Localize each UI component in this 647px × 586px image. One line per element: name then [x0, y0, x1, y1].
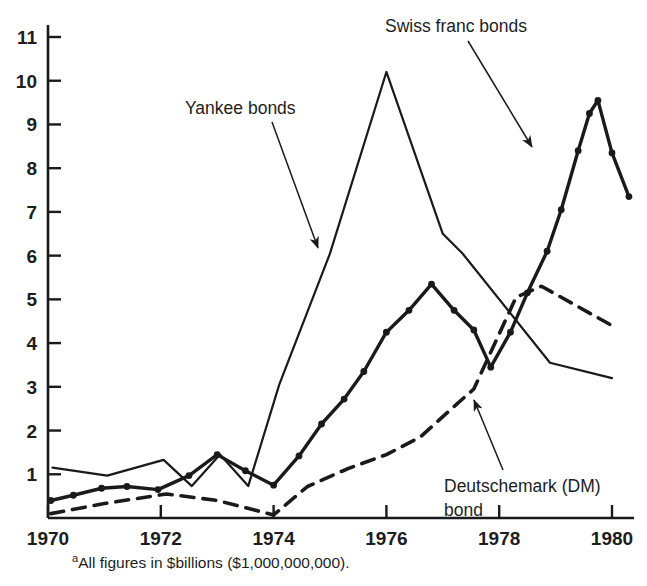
data-point-marker [242, 467, 249, 474]
data-point-marker [595, 97, 602, 104]
annotation-arrow-yankee [272, 122, 318, 248]
y-tick-label: 9 [26, 114, 37, 135]
annotation-label-swiss: Swiss franc bonds [385, 16, 527, 36]
data-point-marker [383, 329, 390, 336]
chart-markers-layer [47, 97, 632, 504]
data-point-marker [70, 492, 77, 499]
y-tick-label: 6 [26, 246, 37, 267]
annotation-label-dm: Deutschemark (DM) [444, 476, 601, 496]
y-tick-label: 10 [16, 71, 37, 92]
annotation-arrow-dm [474, 400, 503, 470]
data-point-marker [544, 248, 551, 255]
data-point-marker [98, 485, 105, 492]
x-tick-label: 1976 [365, 528, 407, 549]
data-point-marker [214, 451, 221, 458]
y-tick-label: 11 [17, 27, 38, 48]
series-line-swiss-franc-bonds [51, 100, 629, 500]
x-tick-label: 1970 [27, 528, 69, 549]
data-point-marker [318, 421, 325, 428]
series-line-yankee-bonds [53, 72, 612, 486]
data-point-marker [507, 329, 514, 336]
data-point-marker [487, 364, 494, 371]
x-tick-label: 1980 [591, 528, 633, 549]
y-tick-label: 1 [26, 464, 37, 485]
data-point-marker [524, 289, 531, 296]
data-point-marker [124, 483, 131, 490]
data-point-marker [558, 206, 565, 213]
data-point-marker [626, 193, 633, 200]
x-tick-label: 1978 [478, 528, 520, 549]
chart-container: 1234567891011 197019721974197619781980 Y… [0, 0, 647, 586]
chart-axes [48, 25, 634, 518]
data-point-marker [341, 396, 348, 403]
y-tick-label: 8 [26, 158, 37, 179]
data-point-marker [470, 327, 477, 334]
data-point-marker [360, 368, 367, 375]
y-tick-label: 3 [26, 377, 37, 398]
data-point-marker [451, 307, 458, 314]
data-point-marker [428, 281, 435, 288]
y-tick-label: 4 [26, 333, 37, 354]
data-point-marker [575, 147, 582, 154]
x-axis-ticks: 197019721974197619781980 [27, 505, 633, 549]
annotation-arrow-swiss [468, 41, 532, 147]
data-point-marker [186, 472, 193, 479]
data-point-marker [609, 149, 616, 156]
data-point-marker [586, 110, 593, 117]
data-point-marker [270, 482, 277, 489]
annotation-label-dm-line2: bond [444, 500, 483, 520]
x-tick-label: 1972 [140, 528, 182, 549]
y-tick-label: 7 [26, 202, 37, 223]
annotation-label-yankee: Yankee bonds [185, 98, 296, 118]
data-point-marker [296, 453, 303, 460]
data-point-marker [47, 497, 54, 504]
line-chart: 1234567891011 197019721974197619781980 Y… [0, 0, 647, 586]
x-tick-label: 1974 [252, 528, 295, 549]
data-point-marker [406, 307, 413, 314]
y-tick-label: 5 [26, 289, 37, 310]
footnote: aAll figures in $billions ($1,000,000,00… [72, 552, 350, 572]
footnote-text: All figures in $billions ($1,000,000,000… [78, 554, 349, 571]
y-axis-ticks: 1234567891011 [16, 27, 61, 485]
chart-series-layer [51, 72, 629, 515]
y-tick-label: 2 [26, 421, 37, 442]
data-point-marker [155, 486, 162, 493]
